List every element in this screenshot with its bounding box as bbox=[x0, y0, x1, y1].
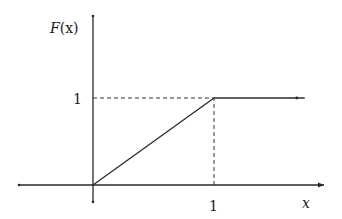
x-tick-label: 1 bbox=[209, 198, 218, 214]
cdf-segment-1 bbox=[93, 98, 214, 185]
y-tick-label: 1 bbox=[73, 91, 82, 107]
x-axis-arrow bbox=[318, 183, 324, 188]
x-axis-label: x bbox=[302, 195, 310, 211]
y-axis-label: F(x) bbox=[49, 20, 79, 36]
cdf-chart: F(x) x 1 1 bbox=[0, 0, 342, 219]
y-axis-top-end bbox=[92, 15, 95, 18]
y-axis-bottom-end bbox=[92, 201, 95, 204]
x-axis-left-end bbox=[18, 184, 21, 187]
cdf-end-dot bbox=[295, 97, 298, 100]
